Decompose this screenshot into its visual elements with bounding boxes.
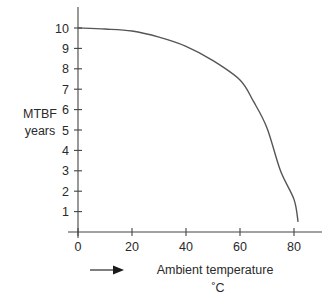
x-axis-title: Ambient temperature: [157, 263, 274, 277]
mtbf-curve: [78, 28, 298, 222]
right-arrow-icon: [90, 266, 124, 275]
x-tick-label: 40: [179, 240, 193, 254]
y-tick-label: 10: [55, 22, 69, 36]
y-tick-label: 2: [62, 185, 69, 199]
x-tick-label: 80: [287, 240, 301, 254]
x-tick-label: 60: [233, 240, 247, 254]
y-tick-label: 1: [62, 205, 69, 219]
y-axis-title: MTBF: [23, 107, 57, 121]
y-tick-label: 3: [62, 164, 69, 178]
y-tick-label: 7: [62, 83, 69, 97]
x-axis-unit: ˚C: [211, 281, 224, 295]
y-axis-unit: years: [25, 124, 56, 138]
x-tick-label: 0: [75, 240, 82, 254]
x-tick-label: 20: [125, 240, 139, 254]
y-tick-label: 5: [62, 124, 69, 138]
y-tick-label: 4: [62, 144, 69, 158]
y-tick-label: 8: [62, 62, 69, 76]
y-tick-label: 6: [62, 103, 69, 117]
y-tick-label: 9: [62, 42, 69, 56]
mtbf-chart: 12345678910 020406080 MTBF years Ambient…: [0, 0, 336, 300]
